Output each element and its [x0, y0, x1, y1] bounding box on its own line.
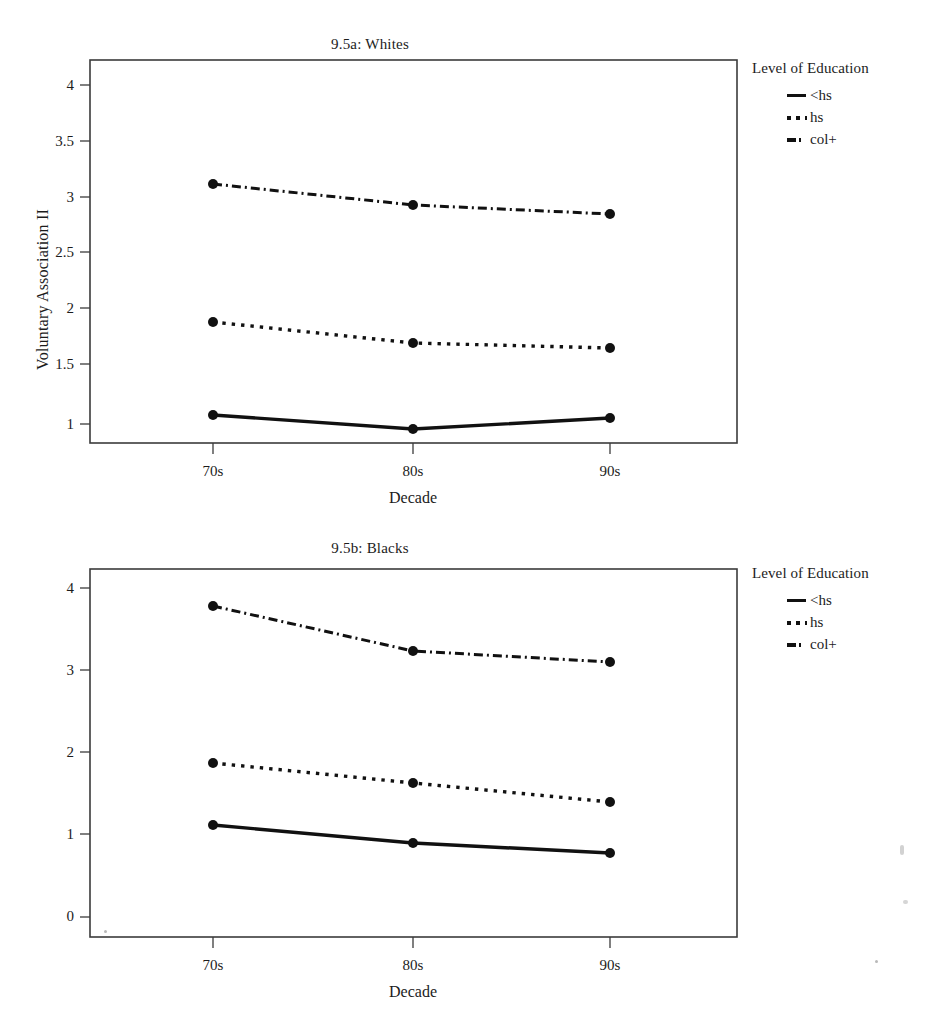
- series-line-hs-whites: [208, 317, 615, 353]
- legend-item-col-plus[interactable]: col+: [786, 633, 869, 655]
- legend-item-label: <hs: [810, 88, 832, 103]
- series-line-lt-hs-blacks: [208, 820, 615, 858]
- data-point: [408, 778, 418, 788]
- plot-frame: [90, 60, 737, 443]
- legend-item-lt-hs[interactable]: <hs: [786, 84, 869, 106]
- legend-key-dash-dot-line-icon: [786, 134, 808, 144]
- chart-panel-blacks: 9.5b: Blacks Voluntary Association II 4 …: [0, 510, 926, 1035]
- data-point: [408, 838, 418, 848]
- data-point: [605, 797, 615, 807]
- data-point: [208, 758, 218, 768]
- data-point: [605, 209, 615, 219]
- figure-page: 9.5a: Whites Voluntary Association II 4 …: [0, 0, 926, 1035]
- scan-speck: [104, 930, 107, 933]
- legend-key-solid-line-icon: [786, 90, 808, 100]
- legend-item-lt-hs[interactable]: <hs: [786, 589, 869, 611]
- scan-speck: [900, 845, 904, 855]
- y-tick-marks: [80, 85, 90, 424]
- scan-speck: [875, 960, 878, 963]
- legend-key-dotted-line-icon: [786, 617, 808, 627]
- x-tick-marks: [213, 443, 610, 454]
- legend-item-hs[interactable]: hs: [786, 611, 869, 633]
- data-point: [408, 646, 418, 656]
- scan-speck: [903, 900, 908, 904]
- legend-item-label: col+: [810, 132, 837, 147]
- y-tick-marks: [80, 588, 90, 917]
- legend-item-label: hs: [810, 110, 823, 125]
- legend-item-hs[interactable]: hs: [786, 106, 869, 128]
- legend-key-dash-dot-line-icon: [786, 639, 808, 649]
- series-line-col-plus-blacks: [208, 601, 615, 667]
- series-line-hs-blacks: [208, 758, 615, 807]
- legend-item-label: col+: [810, 637, 837, 652]
- data-point: [408, 338, 418, 348]
- data-point: [208, 601, 218, 611]
- data-point: [208, 317, 218, 327]
- series-line-lt-hs-whites: [208, 410, 615, 434]
- legend-title: Level of Education: [752, 565, 869, 582]
- data-point: [408, 424, 418, 434]
- data-point: [605, 413, 615, 423]
- legend-whites: Level of Education <hs hs col+: [752, 60, 869, 150]
- legend-item-label: <hs: [810, 593, 832, 608]
- data-point: [208, 410, 218, 420]
- data-point: [208, 179, 218, 189]
- series-line-col-plus-whites: [208, 179, 615, 219]
- legend-item-label: hs: [810, 615, 823, 630]
- data-point: [605, 848, 615, 858]
- legend-key-solid-line-icon: [786, 595, 808, 605]
- data-point: [605, 343, 615, 353]
- data-point: [208, 820, 218, 830]
- x-tick-marks: [213, 937, 610, 948]
- legend-title: Level of Education: [752, 60, 869, 77]
- legend-item-col-plus[interactable]: col+: [786, 128, 869, 150]
- legend-key-dotted-line-icon: [786, 112, 808, 122]
- data-point: [408, 200, 418, 210]
- legend-blacks: Level of Education <hs hs col+: [752, 565, 869, 655]
- data-point: [605, 657, 615, 667]
- chart-panel-whites: 9.5a: Whites Voluntary Association II 4 …: [0, 0, 926, 520]
- plot-frame: [90, 569, 737, 937]
